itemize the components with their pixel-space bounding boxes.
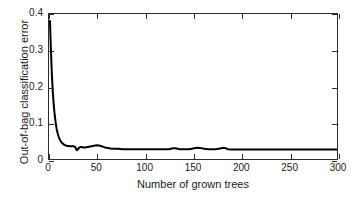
y-axis-title: Out-of-bag classification error xyxy=(18,12,30,172)
y-tick-0.4 xyxy=(49,14,54,15)
y-tick-right-0.2 xyxy=(332,88,337,89)
x-tick-150 xyxy=(194,154,195,159)
x-tick-50 xyxy=(97,154,98,159)
x-tick-top-100 xyxy=(146,14,147,19)
x-tick-300 xyxy=(339,154,340,159)
plot-area xyxy=(48,13,338,160)
x-tick-top-300 xyxy=(339,14,340,19)
y-tick-0.2 xyxy=(49,88,54,89)
x-tick-top-250 xyxy=(291,14,292,19)
series-line-oob-error xyxy=(49,14,337,159)
x-tick-label-200: 200 xyxy=(221,162,261,174)
x-tick-label-250: 250 xyxy=(270,162,310,174)
x-tick-top-200 xyxy=(242,14,243,19)
x-tick-top-150 xyxy=(194,14,195,19)
x-tick-100 xyxy=(146,154,147,159)
x-tick-top-50 xyxy=(97,14,98,19)
x-axis-title: Number of grown trees xyxy=(48,178,338,190)
x-tick-0 xyxy=(49,154,50,159)
x-tick-label-150: 150 xyxy=(173,162,213,174)
x-tick-label-50: 50 xyxy=(76,162,116,174)
x-tick-250 xyxy=(291,154,292,159)
oob-error-figure: 050100150200250300 00.10.20.30.4 Number … xyxy=(0,0,359,197)
y-tick-right-0.3 xyxy=(332,51,337,52)
y-tick-0.1 xyxy=(49,124,54,125)
x-tick-200 xyxy=(242,154,243,159)
y-tick-right-0.4 xyxy=(332,14,337,15)
y-tick-0.3 xyxy=(49,51,54,52)
x-tick-label-100: 100 xyxy=(125,162,165,174)
y-tick-right-0.1 xyxy=(332,124,337,125)
x-tick-label-300: 300 xyxy=(318,162,358,174)
